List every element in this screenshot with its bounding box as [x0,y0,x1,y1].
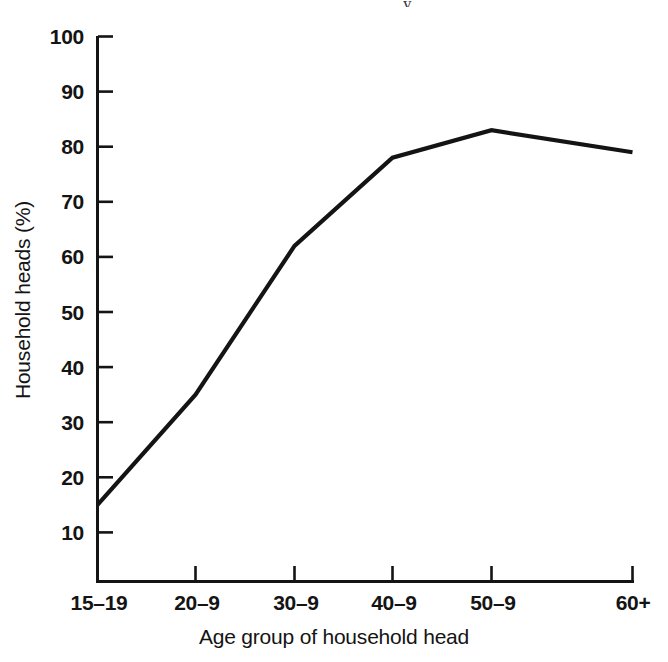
x-tick-label-40-9: 40–9 [371,592,417,613]
x-axis-title: Age group of household head [0,625,668,649]
plot-area [0,0,668,662]
x-tick-label-15-19: 15–19 [71,592,128,613]
y-axis-ticks [98,37,113,533]
x-tick-label-50-9: 50–9 [470,592,516,613]
y-axis-title: Household heads (%) [11,201,35,399]
y-axis-title-wrap: Household heads (%) [6,0,40,600]
data-series-line [98,130,633,505]
chart-figure: y 100 9 [0,0,668,662]
x-tick-label-30-9: 30–9 [273,592,319,613]
x-tick-label-60plus: 60+ [616,592,651,613]
x-tick-label-20-9: 20–9 [174,592,220,613]
x-axis-ticks [98,566,633,581]
